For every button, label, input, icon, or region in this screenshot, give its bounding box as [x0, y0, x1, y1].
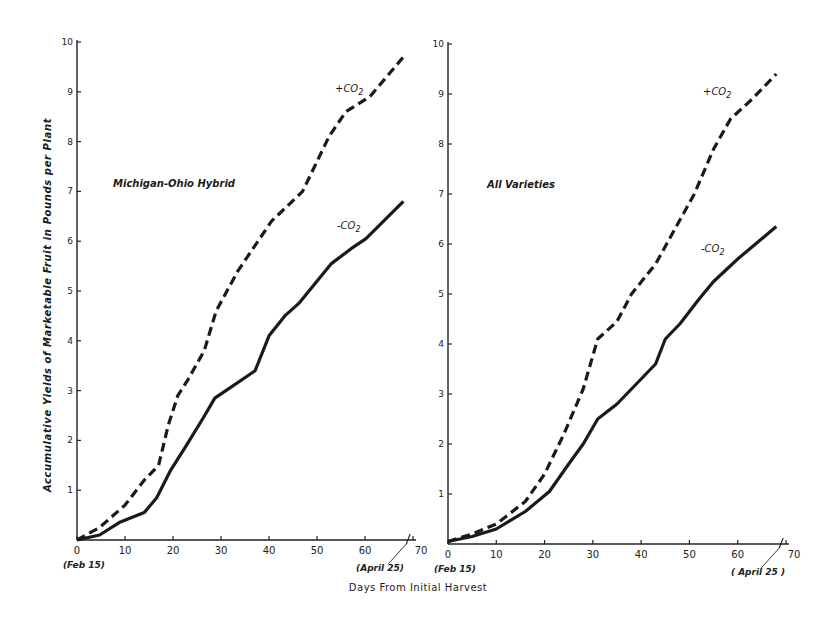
y-tick-label: 10: [62, 37, 74, 47]
y-axis-title: Accumulative Yields of Marketable Fruit …: [42, 117, 53, 493]
series-minus-co2-line: [448, 227, 776, 542]
x-tick-label: 0: [445, 549, 451, 560]
axis-break-mark: [779, 538, 783, 548]
label-minus-co2: -CO2: [701, 243, 725, 257]
y-tick-label: 9: [438, 89, 444, 99]
april-25-annotation: (April 25): [356, 563, 404, 573]
label-plus-co2: +CO2: [703, 86, 731, 100]
y-tick-label: 2: [438, 439, 444, 449]
x-tick-label: 10: [119, 545, 132, 556]
y-tick-label: 6: [438, 239, 444, 249]
x-tick-label: 70: [415, 545, 428, 556]
x-tick-label: 30: [586, 549, 599, 560]
series-minus-co2-line: [77, 201, 403, 540]
y-tick-label: 3: [438, 389, 444, 399]
y-tick-label: 2: [67, 435, 73, 445]
x-tick-label: 20: [167, 545, 180, 556]
x-tick-label: 50: [311, 545, 324, 556]
y-tick-label: 10: [433, 39, 445, 49]
y-tick-label: 8: [438, 139, 444, 149]
figure: Accumulative Yields of Marketable Fruit …: [0, 0, 836, 619]
x-tick-label: 0: [74, 545, 80, 556]
y-tick-label: 1: [67, 485, 73, 495]
x-tick-label: 20: [538, 549, 551, 560]
x-tick-label: 60: [359, 545, 372, 556]
series-plus-co2-line: [448, 74, 776, 542]
y-tick-label: 5: [438, 289, 444, 299]
y-tick-label: 3: [67, 386, 73, 396]
axis-break-mark: [406, 534, 410, 544]
panel-all-varieties: 12345678910010203040506070(Feb 15)( Apri…: [433, 39, 801, 577]
y-tick-label: 7: [438, 189, 444, 199]
y-tick-label: 7: [67, 186, 73, 196]
x-axis-title: Days From Initial Harvest: [349, 582, 487, 593]
feb-15-annotation: (Feb 15): [434, 564, 476, 574]
april-leader-line: [388, 543, 407, 564]
y-tick-label: 8: [67, 137, 73, 147]
y-tick-label: 9: [67, 87, 73, 97]
y-tick-label: 1: [438, 489, 444, 499]
x-tick-label: 30: [215, 545, 228, 556]
panel-title: All Varieties: [486, 179, 555, 190]
x-tick-label: 40: [263, 545, 276, 556]
x-tick-label: 70: [788, 549, 801, 560]
y-tick-label: 5: [67, 286, 73, 296]
panel-title: Michigan-Ohio Hybrid: [113, 178, 236, 189]
x-tick-label: 40: [635, 549, 648, 560]
y-tick-label: 4: [67, 336, 73, 346]
april-leader-line: [761, 547, 780, 568]
panel-michigan-ohio-hybrid: 12345678910010203040506070(Feb 15)(April…: [62, 37, 428, 573]
label-minus-co2: -CO2: [337, 220, 361, 234]
april-25-annotation: ( April 25 ): [731, 567, 785, 577]
series-plus-co2-line: [77, 57, 403, 540]
x-tick-label: 60: [731, 549, 744, 560]
feb-15-annotation: (Feb 15): [63, 560, 105, 570]
y-tick-label: 6: [67, 236, 73, 246]
x-tick-label: 50: [683, 549, 696, 560]
x-tick-label: 10: [490, 549, 503, 560]
y-tick-label: 4: [438, 339, 444, 349]
label-plus-co2: +CO2: [335, 83, 363, 97]
